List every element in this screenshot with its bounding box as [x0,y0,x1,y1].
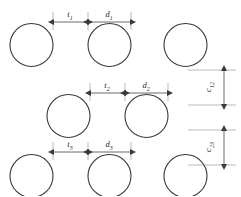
row-2-gap-label: t2 [104,80,109,92]
row-3-group: t3 d3 [10,139,207,196]
row-3-diameter-label: d3 [105,139,112,151]
row-1-diameter-label: d1 [105,9,112,21]
row-1-circle-1 [10,24,53,67]
row-2-circle-1 [47,95,90,138]
row-3-circle-3 [164,155,207,197]
row-1-gap-label: t1 [67,9,72,21]
row-2-group: t2 d2 [47,80,168,138]
row-1-group: t1 d1 [10,9,207,67]
diagram-canvas: t1 d1 t2 d2 t3 d3 [0,0,241,196]
spacing-1-2-group: c12 [188,70,236,105]
row-3-circle-1 [10,155,53,197]
spacing-2-3-label: c23 [203,142,215,152]
row-3-circle-2 [88,155,131,197]
row-3-gap-label: t3 [67,139,72,151]
spacing-1-2-label: c12 [203,82,215,92]
row-1-circle-3 [164,24,207,67]
periodic-array-diagram: t1 d1 t2 d2 t3 d3 [0,0,241,196]
row-1-circle-2 [88,24,131,67]
row-2-diameter-label: d2 [142,80,149,92]
row-2-circle-2 [125,95,168,138]
